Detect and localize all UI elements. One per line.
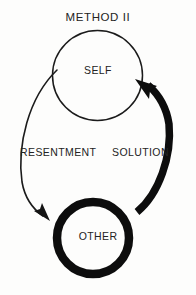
other-node-label: OTHER xyxy=(0,230,196,242)
resentment-arrow-label: RESENTMENT xyxy=(20,146,96,158)
diagram-canvas: METHOD II SELF OTHER RESENTMENT SOLUTION xyxy=(0,0,196,295)
resentment-arrow-shaft xyxy=(21,70,57,216)
diagram-title: METHOD II xyxy=(0,11,196,23)
solution-arrow-label: SOLUTION xyxy=(112,146,169,158)
resentment-arrow-head xyxy=(34,203,50,221)
self-node-label: SELF xyxy=(0,64,196,76)
